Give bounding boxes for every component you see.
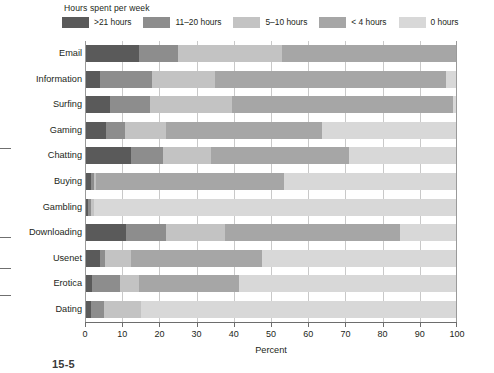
x-tick-label-80: 80 <box>378 329 388 340</box>
bar-segment <box>453 96 457 113</box>
bar-segment <box>239 275 457 292</box>
legend-swatch-h11_20 <box>143 17 170 28</box>
bar-segment <box>139 45 178 62</box>
x-tick-80 <box>383 322 384 327</box>
bar-segment <box>166 224 225 241</box>
x-tick-label-30: 30 <box>192 329 202 340</box>
x-tick-50 <box>271 322 272 327</box>
bar-segment <box>262 250 457 267</box>
bar-segment <box>100 71 152 88</box>
bar-segment <box>85 250 100 267</box>
edge-mark <box>0 268 11 269</box>
y-axis-label-erotica: Erotica <box>2 275 82 292</box>
bar-segment <box>126 224 166 241</box>
x-tick-100 <box>456 322 457 327</box>
edge-mark <box>0 148 11 149</box>
bar-row <box>85 275 457 292</box>
legend-item-zero: 0 hours <box>399 16 471 28</box>
bar-segment <box>85 45 139 62</box>
y-axis-label-downloading: Downloading <box>2 224 82 241</box>
x-tick-20 <box>159 322 160 327</box>
bar-segment <box>125 122 166 139</box>
x-tick-label-40: 40 <box>229 329 239 340</box>
x-tick-label-100: 100 <box>449 329 464 340</box>
bar-row <box>85 147 457 164</box>
legend-item-h11_20: 11–20 hours <box>143 16 233 28</box>
bar-segment <box>211 147 349 164</box>
y-axis-label-usenet: Usenet <box>2 250 82 267</box>
bar-segment <box>85 224 126 241</box>
legend-label-zero: 0 hours <box>431 17 459 28</box>
legend-label-h11_20: 11–20 hours <box>175 17 221 28</box>
bar-segment <box>446 71 457 88</box>
legend-item-h5_10: 5–10 hours <box>233 16 319 28</box>
bar-segment <box>131 147 163 164</box>
bar-segment <box>85 147 131 164</box>
bar-segment <box>104 301 141 318</box>
bar-segment <box>91 301 104 318</box>
y-axis-labels: EmailInformationSurfingGamingChattingBuy… <box>0 41 82 322</box>
legend-swatch-lt4 <box>319 17 346 28</box>
bar-segment <box>85 122 106 139</box>
y-axis-label-gambling: Gambling <box>2 199 82 216</box>
x-tick-40 <box>234 322 235 327</box>
bar-segment <box>85 71 100 88</box>
bar-segment <box>150 96 232 113</box>
bar-segment <box>131 250 261 267</box>
legend-swatch-gt21 <box>62 17 89 28</box>
legend-title: Hours spent per week <box>64 3 490 14</box>
bar-segment <box>163 147 211 164</box>
bar-segment <box>232 96 453 113</box>
x-tick-label-70: 70 <box>340 329 350 340</box>
x-tick-label-20: 20 <box>154 329 164 340</box>
bar-segment <box>152 71 215 88</box>
x-tick-60 <box>308 322 309 327</box>
bar-segment <box>400 224 457 241</box>
bar-row <box>85 224 457 241</box>
x-tick-label-50: 50 <box>266 329 276 340</box>
bar-segment <box>166 122 322 139</box>
legend-swatch-h5_10 <box>233 17 260 28</box>
y-axis-label-surfing: Surfing <box>2 96 82 113</box>
x-tick-label-90: 90 <box>415 329 425 340</box>
x-tick-70 <box>345 322 346 327</box>
bar-segment <box>284 173 457 190</box>
bar-segment <box>322 122 457 139</box>
figure: Hours spent per week >21 hours11–20 hour… <box>0 0 494 373</box>
legend-label-lt4: < 4 hours <box>351 17 386 28</box>
bar-segment <box>120 275 139 292</box>
legend-item-lt4: < 4 hours <box>319 16 398 28</box>
legend-item-gt21: >21 hours <box>62 16 143 28</box>
x-tick-label-0: 0 <box>82 329 87 340</box>
x-tick-label-60: 60 <box>303 329 313 340</box>
bar-row <box>85 301 457 318</box>
bar-row <box>85 173 457 190</box>
x-tick-30 <box>197 322 198 327</box>
y-axis-label-buying: Buying <box>2 173 82 190</box>
bar-row <box>85 122 457 139</box>
legend-items: >21 hours11–20 hours5–10 hours< 4 hours0… <box>62 16 490 28</box>
figure-caption: 15-5 <box>52 358 75 370</box>
bar-segment <box>94 199 457 216</box>
x-tick-label-10: 10 <box>117 329 127 340</box>
x-axis-title: Percent <box>85 345 457 355</box>
chart-legend: Hours spent per week >21 hours11–20 hour… <box>62 3 490 37</box>
bar-segment <box>105 250 131 267</box>
x-tick-0 <box>85 322 86 327</box>
bar-segment <box>85 275 92 292</box>
edge-mark <box>0 237 11 238</box>
bar-row <box>85 96 457 113</box>
plot-area <box>85 41 457 322</box>
bar-segment <box>106 122 125 139</box>
bar-row <box>85 250 457 267</box>
bar-segment <box>141 301 457 318</box>
bar-segment <box>110 96 150 113</box>
bar-row <box>85 45 457 62</box>
legend-label-gt21: >21 hours <box>94 17 131 28</box>
y-axis-label-information: Information <box>2 71 82 88</box>
bar-segment <box>282 45 457 62</box>
bar-row <box>85 199 457 216</box>
bar-segment <box>96 173 284 190</box>
y-axis-label-gaming: Gaming <box>2 122 82 139</box>
legend-label-h5_10: 5–10 hours <box>265 17 307 28</box>
